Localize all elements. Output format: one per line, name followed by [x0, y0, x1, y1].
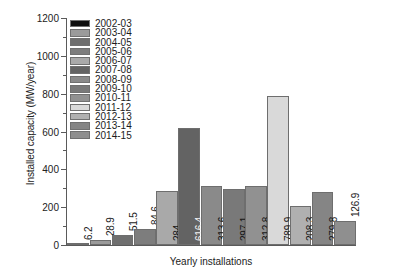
y-tick-label: 600 — [42, 126, 59, 137]
legend: 2002-032003-042004-052005-062006-072007-… — [70, 19, 144, 140]
y-tick-mark — [63, 113, 66, 114]
y-tick-mark — [63, 75, 66, 76]
legend-swatch — [70, 66, 90, 74]
y-tick-label: 200 — [42, 202, 59, 213]
legend-label: 2014-15 — [95, 131, 132, 140]
y-tick-mark — [61, 18, 66, 19]
bar — [112, 235, 134, 245]
bar — [67, 243, 89, 245]
legend-swatch — [70, 29, 90, 37]
bar-chart-figure: Installed capacity (MW/year) 02004006008… — [0, 0, 410, 278]
y-tick-mark — [63, 226, 66, 227]
legend-swatch — [70, 122, 90, 130]
y-tick-mark — [63, 188, 66, 189]
legend-swatch — [70, 57, 90, 65]
y-tick-label: 400 — [42, 164, 59, 175]
y-tick-mark — [61, 94, 66, 95]
y-tick-mark — [61, 56, 66, 57]
legend-swatch — [70, 20, 90, 28]
y-tick-mark — [63, 37, 66, 38]
x-axis-line — [66, 245, 356, 246]
y-tick-mark — [61, 245, 66, 246]
y-tick-label: 1200 — [37, 13, 59, 24]
legend-swatch — [70, 131, 90, 139]
legend-swatch — [70, 76, 90, 84]
y-tick-label: 1000 — [37, 50, 59, 61]
bar — [334, 221, 356, 245]
legend-swatch — [70, 113, 90, 121]
bar — [134, 229, 156, 245]
y-tick-mark — [63, 150, 66, 151]
legend-swatch — [70, 94, 90, 102]
y-tick-label: 0 — [53, 240, 59, 251]
legend-item[interactable]: 2014-15 — [70, 131, 144, 140]
legend-swatch — [70, 104, 90, 112]
x-axis-title: Yearly installations — [66, 256, 356, 267]
y-axis-title: Installed capacity (MW/year) — [25, 24, 36, 224]
y-tick-mark — [61, 169, 66, 170]
y-tick-mark — [61, 132, 66, 133]
legend-swatch — [70, 48, 90, 56]
bar — [90, 240, 112, 245]
y-tick-mark — [61, 207, 66, 208]
y-tick-label: 800 — [42, 88, 59, 99]
legend-swatch — [70, 85, 90, 93]
legend-swatch — [70, 38, 90, 46]
